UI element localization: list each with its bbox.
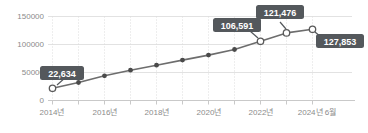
callout-2022: 106,591 [213,18,261,38]
data-point-2023[interactable] [283,30,289,36]
x-tick-2018: 2018년 [145,107,170,117]
x-tick-2024: 2024년 6월 [298,107,336,117]
data-point-2016[interactable] [102,73,107,78]
x-tick-2020: 2020년 [197,107,222,117]
data-point-2019[interactable] [180,58,185,63]
data-point-2015[interactable] [76,80,81,85]
callout-leader-2023 [280,22,286,29]
x-axis-labels: 2014년 2016년 2018년 2020년 2022년 2024년 6월 [40,107,337,117]
data-point-2020[interactable] [206,53,211,58]
data-point-2024[interactable] [309,26,315,32]
chart-canvas: 150000 100000 50000 0 2014년 2016년 2018년 … [0,0,368,133]
data-point-2018[interactable] [154,63,159,68]
data-point-2017[interactable] [128,68,133,73]
y-tick-0: 0 [40,96,45,105]
y-axis-labels: 150000 100000 50000 0 [17,12,44,105]
data-point-2021[interactable] [232,47,237,52]
x-tick-2022: 2022년 [249,107,274,117]
horizontal-gridlines [48,17,352,73]
y-tick-150000: 150000 [17,12,44,21]
callout-label-2024: 127,853 [324,37,357,47]
callout-2023: 121,476 [256,5,304,29]
data-point-2014[interactable] [49,85,55,91]
y-tick-100000: 100000 [17,40,44,49]
line-chart: 150000 100000 50000 0 2014년 2016년 2018년 … [0,0,368,133]
callout-label-2022: 106,591 [221,21,254,31]
callout-leader-2022 [250,31,258,38]
data-point-2022[interactable] [257,38,263,44]
callout-2024: 127,853 [315,32,364,48]
x-tick-2016: 2016년 [93,107,118,117]
x-axis [48,101,355,105]
x-tick-2014: 2014년 [40,107,65,117]
callout-label-2023: 121,476 [264,8,297,18]
callout-label-2014: 22,634 [48,69,76,79]
